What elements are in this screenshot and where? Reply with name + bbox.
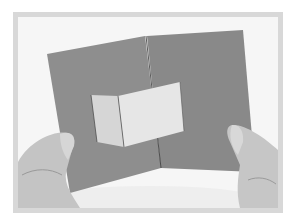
popup-card-illustration — [18, 17, 278, 208]
photo-frame — [13, 12, 283, 213]
photograph — [18, 17, 278, 208]
